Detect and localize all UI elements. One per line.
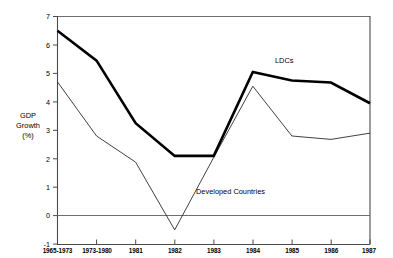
y-tick-label-3: 3 [46,126,50,135]
series-line-ldcs [58,31,371,156]
x-tick-label-6: 1985 [285,247,299,254]
y-axis-ticks [53,17,58,245]
y-tick-label-0: 0 [46,211,50,220]
y-axis-title-line-2: Growth [16,121,40,130]
x-tick-label-0: 1965-1973 [43,247,73,254]
y-tick-label-6: 6 [46,41,50,50]
y-tick-label-1: 1 [46,183,50,192]
y-tick-label-4: 4 [46,98,50,107]
x-tick-label-5: 1984 [246,247,260,254]
series-annotation-ldcs: LDCs [275,56,294,65]
x-tick-label-7: 1986 [324,247,338,254]
series-annotation-developed-countries: Developed Countries [196,187,265,196]
x-axis-ticks [58,240,371,245]
y-tick-label-2: 2 [46,155,50,164]
y-axis-title: GDP Growth (%) [16,111,40,140]
x-tick-label-4: 1983 [207,247,221,254]
x-tick-label-3: 1982 [168,247,182,254]
y-axis-title-line-3: (%) [22,131,34,140]
y-tick-label-5: 5 [46,69,50,78]
x-tick-label-2: 1981 [129,247,143,254]
x-tick-label-8: 1987 [362,247,376,254]
y-axis-title-line-1: GDP [20,111,36,120]
chart-canvas: 7 6 5 4 3 2 1 0 -1 GDP Growth (%) [0,0,393,258]
y-tick-label-7: 7 [46,12,50,21]
x-tick-label-1: 1973-1980 [82,247,112,254]
y-axis-tick-labels: 7 6 5 4 3 2 1 0 -1 [44,12,50,249]
x-axis-tick-labels: 1965-1973 1973-1980 1981 1982 1983 1984 … [43,247,377,254]
gdp-growth-line-chart: 7 6 5 4 3 2 1 0 -1 GDP Growth (%) [0,0,393,258]
